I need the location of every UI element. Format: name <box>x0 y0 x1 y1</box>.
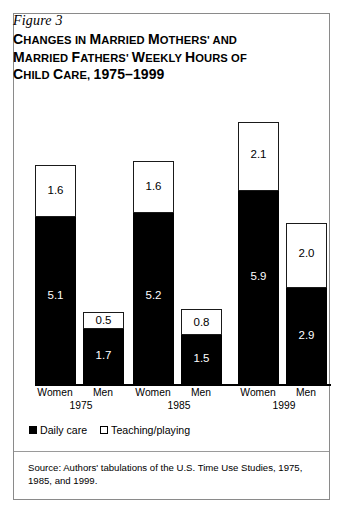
source-divider <box>14 451 329 452</box>
bar-value-teaching-playing: 2.1 <box>238 148 279 160</box>
axis-label-men-1985: Men <box>176 387 226 399</box>
legend-label-teaching-playing: Teaching/playing <box>111 424 190 436</box>
bar-value-daily-care: 2.9 <box>286 329 327 341</box>
axis-label-women-1975: Women <box>30 387 80 399</box>
chart-legend: Daily care Teaching/playing <box>29 424 203 436</box>
bar-value-daily-care: 5.9 <box>238 270 279 282</box>
bar-men-1985: 0.8 1.5 <box>181 309 222 384</box>
bar-chart-plot-area: 1.6 5.1 0.5 1.7 1.6 5.2 0.8 1.5 2.1 5.9 … <box>13 0 330 521</box>
source-note: Source: Authors' tabulations of the U.S.… <box>28 462 318 487</box>
bar-value-daily-care: 1.5 <box>181 352 222 364</box>
legend-swatch-hollow-icon <box>100 426 108 434</box>
bar-value-daily-care: 5.1 <box>35 289 76 301</box>
bar-women-1975: 1.6 5.1 <box>35 165 76 384</box>
axis-label-year-1985: 1985 <box>124 400 234 412</box>
legend-item-daily-care: Daily care <box>29 424 87 436</box>
axis-label-women-1985: Women <box>128 387 178 399</box>
bar-value-daily-care: 5.2 <box>133 289 174 301</box>
legend-swatch-filled-icon <box>29 426 37 434</box>
axis-label-men-1999: Men <box>281 387 331 399</box>
axis-label-men-1975: Men <box>78 387 128 399</box>
bar-value-teaching-playing: 2.0 <box>286 247 327 259</box>
bar-segment-daily-care <box>238 191 279 384</box>
axis-label-year-1975: 1975 <box>26 400 136 412</box>
bar-value-teaching-playing: 1.6 <box>35 184 76 196</box>
legend-item-teaching-playing: Teaching/playing <box>100 424 190 436</box>
axis-label-year-1999: 1999 <box>229 400 339 412</box>
bar-value-teaching-playing: 1.6 <box>133 180 174 192</box>
x-axis-line <box>35 384 331 386</box>
bar-men-1975: 0.5 1.7 <box>83 312 124 384</box>
axis-label-women-1999: Women <box>233 387 283 399</box>
legend-label-daily-care: Daily care <box>40 424 87 436</box>
bar-women-1985: 1.6 5.2 <box>133 161 174 384</box>
bar-men-1999: 2.0 2.9 <box>286 223 327 384</box>
bar-value-teaching-playing: 0.5 <box>83 314 124 326</box>
bar-value-daily-care: 1.7 <box>83 349 124 361</box>
bar-value-teaching-playing: 0.8 <box>181 316 222 328</box>
bar-women-1999: 2.1 5.9 <box>238 122 279 384</box>
